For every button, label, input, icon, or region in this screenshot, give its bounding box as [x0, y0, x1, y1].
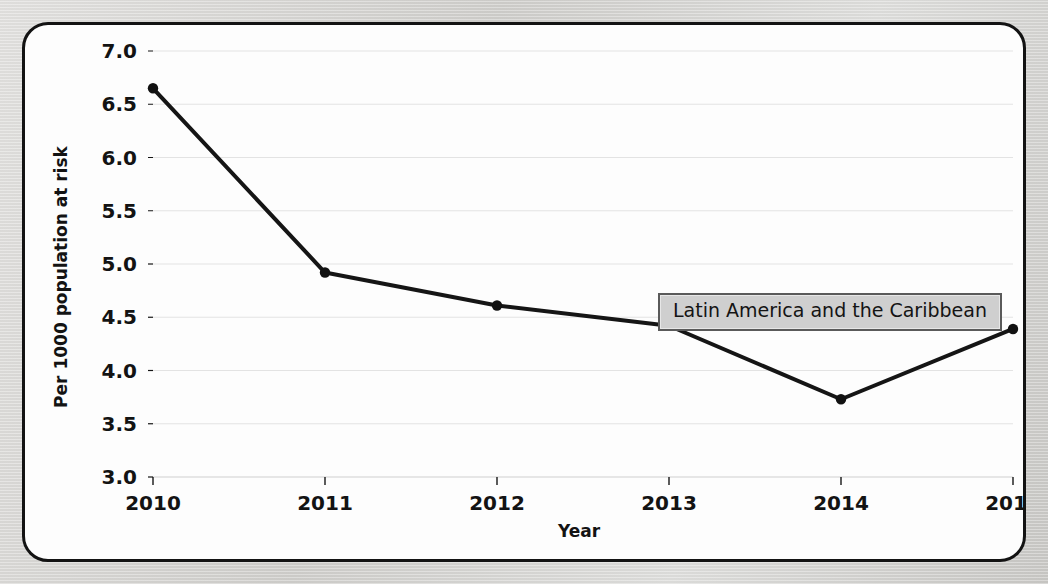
svg-text:3.0: 3.0: [102, 465, 137, 489]
svg-text:6.5: 6.5: [102, 92, 137, 116]
legend-box: Latin America and the Caribbean: [658, 293, 1002, 331]
page-root: 3.03.54.04.55.05.56.06.57.0 201020112012…: [0, 0, 1048, 584]
svg-text:2013: 2013: [641, 491, 697, 515]
x-axis-title: Year: [557, 521, 601, 541]
data-markers: [148, 83, 1018, 404]
svg-text:3.5: 3.5: [102, 412, 137, 436]
legend-label: Latin America and the Caribbean: [673, 299, 987, 321]
y-axis-title: Per 1000 population at risk: [51, 145, 71, 407]
data-line: [153, 88, 1013, 399]
svg-text:4.5: 4.5: [102, 305, 137, 329]
svg-text:7.0: 7.0: [102, 39, 137, 63]
x-axis-ticks: [153, 477, 1013, 485]
svg-text:2010: 2010: [125, 491, 181, 515]
chart-card: 3.03.54.04.55.05.56.06.57.0 201020112012…: [22, 22, 1026, 562]
y-axis-tick-labels: 3.03.54.04.55.05.56.06.57.0: [102, 39, 137, 489]
gridlines: [153, 51, 1013, 477]
y-axis-ticks: [148, 51, 153, 477]
x-axis-tick-labels: 201020112012201320142015: [125, 491, 1026, 515]
svg-text:2015: 2015: [985, 491, 1026, 515]
plot-area: 3.03.54.04.55.05.56.06.57.0 201020112012…: [25, 25, 1023, 559]
svg-text:5.5: 5.5: [102, 199, 137, 223]
svg-text:6.0: 6.0: [102, 146, 137, 170]
svg-text:5.0: 5.0: [102, 252, 137, 276]
svg-text:2014: 2014: [813, 491, 869, 515]
svg-text:2011: 2011: [297, 491, 353, 515]
svg-text:2012: 2012: [469, 491, 525, 515]
svg-text:4.0: 4.0: [102, 359, 137, 383]
